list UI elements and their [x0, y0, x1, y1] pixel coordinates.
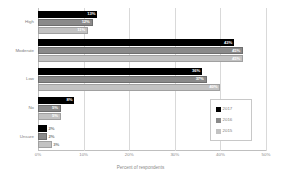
bar[interactable]: 36% — [38, 68, 202, 75]
bar-value-label: 5% — [52, 106, 58, 110]
legend-item[interactable]: 2015 — [216, 126, 251, 137]
bar-row: 13% — [38, 11, 266, 18]
bar-group: High13%12%11% — [38, 8, 266, 37]
category-label: Moderate — [15, 49, 34, 53]
bar[interactable]: 5% — [38, 113, 61, 120]
bar-row: 45% — [38, 55, 266, 62]
bar-row: 40% — [38, 84, 266, 91]
bar-row: 12% — [38, 19, 266, 26]
bar[interactable]: 8% — [38, 97, 74, 104]
bar[interactable] — [38, 141, 52, 148]
bar-row: 43% — [38, 39, 266, 46]
bar[interactable]: 13% — [38, 11, 97, 18]
x-tick-label: 30% — [170, 153, 179, 157]
legend-item[interactable]: 2016 — [216, 115, 251, 126]
bar-row: 36% — [38, 68, 266, 75]
category-label: Unsure — [20, 134, 34, 138]
x-axis-title: Percent of respondents — [0, 166, 281, 171]
bar-value-label: 43% — [224, 41, 232, 45]
bar[interactable] — [38, 125, 47, 132]
bar-row: 37% — [38, 76, 266, 83]
bar[interactable] — [38, 133, 47, 140]
category-label: No — [28, 106, 34, 110]
category-label: High — [25, 20, 34, 24]
legend-swatch-icon — [216, 129, 221, 134]
bar-row: 3% — [38, 141, 266, 148]
legend-label: 2015 — [223, 129, 233, 133]
bar-row: 45% — [38, 47, 266, 54]
bar-row: 11% — [38, 27, 266, 34]
bar-value-label: 45% — [232, 49, 240, 53]
bar-value-label: 2% — [49, 135, 55, 139]
bar[interactable]: 45% — [38, 47, 243, 54]
bar-value-label: 40% — [209, 85, 217, 89]
bar-value-label: 3% — [53, 143, 59, 147]
bar-value-label: 11% — [77, 28, 85, 32]
bar-value-label: 36% — [192, 69, 200, 73]
bar-value-label: 12% — [82, 20, 90, 24]
gridline — [266, 8, 267, 151]
bar[interactable]: 37% — [38, 76, 207, 83]
legend-swatch-icon — [216, 107, 221, 112]
chart-legend: 201720162015 — [210, 99, 252, 141]
x-tick-label: 50% — [262, 153, 271, 157]
bar-group: Low36%37%40% — [38, 65, 266, 94]
legend-label: 2017 — [223, 107, 233, 111]
bar-group: Moderate43%45%45% — [38, 37, 266, 66]
legend-swatch-icon — [216, 118, 221, 123]
bar[interactable]: 43% — [38, 39, 234, 46]
bar[interactable]: 40% — [38, 84, 220, 91]
bar[interactable]: 5% — [38, 105, 61, 112]
bar-value-label: 5% — [52, 114, 58, 118]
bar-value-label: 13% — [87, 12, 95, 16]
chart-container: High13%12%11%Moderate43%45%45%Low36%37%4… — [0, 0, 281, 180]
x-tick-label: 40% — [216, 153, 225, 157]
bar[interactable]: 45% — [38, 55, 243, 62]
bar[interactable]: 12% — [38, 19, 93, 26]
bar-value-label: 2% — [49, 127, 55, 131]
legend-label: 2016 — [223, 118, 233, 122]
x-tick-label: 10% — [79, 153, 88, 157]
bar[interactable]: 11% — [38, 27, 88, 34]
bar-value-label: 37% — [196, 77, 204, 81]
x-tick-label: 0% — [35, 153, 41, 157]
legend-item[interactable]: 2017 — [216, 104, 251, 115]
x-tick-label: 20% — [125, 153, 134, 157]
bar-value-label: 8% — [67, 98, 73, 102]
category-label: Low — [26, 77, 34, 81]
bar-value-label: 45% — [232, 57, 240, 61]
